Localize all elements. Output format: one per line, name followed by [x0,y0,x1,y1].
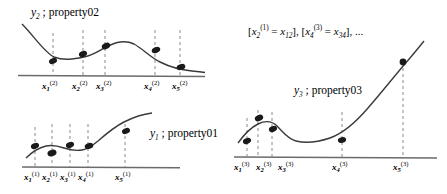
chart-y1-tick-label-3: x3(1) [60,173,76,182]
chart-y3-point-2 [254,114,264,123]
chart-y1-series-label-property: property01 [168,127,218,139]
chart-y3-group [234,41,437,158]
chart-y3-tick-label-1: x1(3) [234,163,250,172]
chart-y1-tick-label-4: x4(1) [78,173,94,182]
chart-y3-series-label-sub: 3 [299,91,303,99]
chart-y2-tick-label-5: x5(2) [172,82,188,91]
chart-y1-tick-label-5: x5(1) [115,173,131,182]
chart-y2-curve [22,24,205,73]
chart-y2-point-4 [151,46,161,55]
figure-canvas [0,0,447,194]
chart-y3-point-1 [242,137,252,145]
chart-y3-series-label-property: property03 [312,84,362,96]
chart-y3-series-label: y3 ; property03 [294,85,362,97]
chart-y3-series-label-sep: ; [303,84,312,96]
chart-y1-curve [26,113,152,158]
chart-y3-point-5 [400,59,407,66]
chart-y2-group [18,24,205,77]
chart-y1-series-label-sep: ; [159,127,168,139]
chart-y1-series-label: y1 ; property01 [150,128,218,140]
chart-y2-tick-label-3: x3(2) [96,82,112,91]
chart-y2-axis [18,76,205,77]
chart-y1-point-3 [65,141,75,149]
chart-y2-tick-label-1: x1(2) [42,82,58,91]
chart-y1-axis [22,167,180,168]
figure-panel: y2 ; property02 x1(2) x2(2) x3(2) x4(2) … [0,0,447,194]
chart-y2-series-label-sub: 2 [36,13,40,21]
chart-y2-series-label-sep: ; [40,6,49,18]
chart-y2-tick-label-4: x4(2) [144,82,160,91]
chart-y2-series-label-property: property02 [49,6,99,18]
chart-y3-tick-label-5: x5(3) [393,163,409,172]
chart-y3-axis [234,157,437,158]
chart-y1-tick-label-2: x2(1) [42,173,58,182]
chart-y3-tick-label-4: x4(3) [332,163,348,172]
chart-y1-tick-label-1: x1(1) [24,173,40,182]
chart-y2-tick-label-2: x2(2) [72,82,88,91]
chart-y3-tick-label-2: x2(3) [256,163,272,172]
chart-y1-series-label-sub: 1 [155,134,159,142]
equality-annotation: [x2(1) = x12], [x4(3) = x34], ... [248,26,363,37]
chart-y2-series-label: y2 ; property02 [31,7,99,19]
chart-y3-tick-label-3: x3(3) [278,163,294,172]
chart-y1-point-5 [121,127,131,135]
chart-y3-point-4 [337,136,347,144]
chart-y1-point-2 [47,149,58,158]
